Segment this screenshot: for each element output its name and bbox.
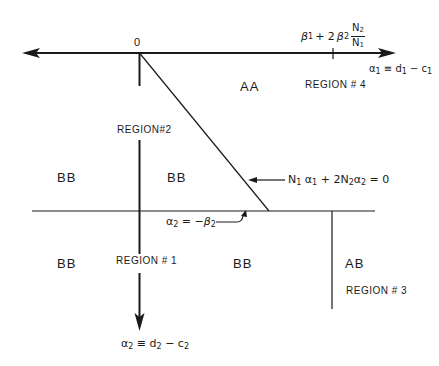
tick-label: β1 + 2 β2 N2 N1: [301, 22, 365, 51]
strategy-ab-label: AB: [345, 257, 364, 270]
strategy-aa-label: AA: [240, 80, 259, 93]
alpha1-symbol: α: [369, 63, 376, 74]
c2-sub: 2: [184, 342, 189, 351]
frac-denominator-sub: 1: [359, 41, 363, 49]
n1-sub: 1: [296, 178, 301, 187]
region-4-label: REGION # 4: [305, 80, 366, 90]
pointer-arrowhead-icon: [248, 177, 257, 183]
alpha2-axis-label: α2 ≡ d2 − c2: [121, 338, 189, 351]
diagonal-pointer: [248, 177, 285, 183]
n2-over-n1-fraction: N2 N1: [351, 22, 365, 51]
horizontal-pointer-hook: [216, 212, 245, 222]
hb-eq: = −: [178, 215, 203, 228]
beta2-sub: 2: [344, 33, 349, 41]
tick-plus-two: + 2: [315, 31, 335, 42]
horizontal-boundary-label: α2 = −β2: [166, 216, 216, 229]
alpha2-minus: − c: [162, 337, 184, 350]
diagonal-equation-label: N1 α1 + 2N2α2 = 0: [288, 174, 389, 187]
c1-sub: 1: [427, 67, 432, 76]
origin-label: 0: [134, 37, 140, 48]
region-1-label: REGION # 1: [116, 256, 177, 266]
diag-alpha2-symbol: α: [354, 173, 361, 186]
beta2-symbol: β: [337, 31, 344, 42]
strategy-bb-lower-mid-label: BB: [233, 257, 252, 270]
alpha1-axis-label: α1 ≡ d1 − c1: [369, 64, 432, 76]
region-3-label: REGION # 3: [346, 286, 407, 296]
alpha2-axis: [135, 53, 145, 331]
diag-alpha1-symbol: α: [305, 173, 312, 186]
alpha2-eq: ≡ d: [133, 337, 156, 350]
beta1-sub: 1: [308, 33, 313, 41]
region-2-label: REGION#2: [117, 125, 172, 135]
diag-eq: = 0: [366, 173, 389, 186]
alpha1-minus: − c: [407, 63, 427, 74]
strategy-bb-upper-mid-label: BB: [167, 171, 186, 184]
strategy-bb-upper-left-label: BB: [57, 171, 76, 184]
alpha1-eq: ≡ d: [381, 63, 402, 74]
hb-beta2-symbol: β: [204, 215, 211, 228]
frac-numerator-sub: 2: [359, 26, 363, 34]
beta1-symbol: β: [301, 31, 308, 42]
diag-plus: + 2N: [317, 173, 348, 186]
strategy-bb-lower-left-label: BB: [57, 257, 76, 270]
n1-symbol: N: [288, 173, 296, 186]
hb-beta2-sub: 2: [211, 220, 216, 229]
